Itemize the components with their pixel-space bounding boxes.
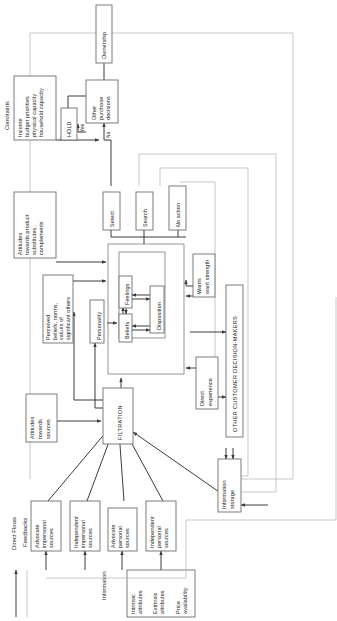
node-other-purchase-decisions[interactable]: Other purchase decisions (86, 80, 118, 123)
node-personality[interactable]: Personality (90, 300, 104, 343)
node-filtration-label: FILTRATION (117, 405, 123, 440)
node-no-action[interactable]: No action (169, 186, 186, 230)
extrinsic-line1: Extrinsic (152, 592, 158, 614)
ips-line3: sources (163, 528, 169, 548)
node-disposition[interactable]: Disposition (150, 286, 164, 333)
direct-exp-line1: Direct (199, 391, 205, 406)
aps-line2: personal (117, 526, 123, 548)
iis-line1: Independent (73, 516, 79, 548)
node-select[interactable]: Select (103, 192, 120, 230)
flowchart-svg: Ownership Other purchase decisions HOLD … (0, 0, 337, 621)
ats-line1: Attitudes (29, 417, 35, 439)
node-attitudes-towards-product[interactable]: Attitudes towards product substitutes, c… (14, 192, 56, 258)
node-constraints[interactable]: Income budget priorities physical capaci… (14, 76, 56, 140)
wants-line1: Wants (196, 278, 202, 294)
intrinsic-line1: Intrinsic (130, 594, 136, 614)
aps-line3: sources (124, 528, 130, 548)
node-attributes-group[interactable]: Intrinsic attributes Extrinsic attribute… (127, 570, 195, 617)
constraints-line2: budget priorities (24, 96, 30, 137)
diagram-canvas: Ownership Other purchase decisions HOLD … (0, 0, 337, 621)
feedback-frames (30, 33, 336, 520)
node-advocate-personal-sources[interactable]: Advocate personal sources (108, 508, 137, 551)
node-independent-personal-sources[interactable]: Independent personal sources (146, 501, 176, 551)
node-information-storage[interactable]: Information storage (218, 459, 241, 512)
ais-line1: Advocate (34, 524, 40, 548)
node-other-customer-decision-makers[interactable]: OTHER CUSTOMER DECISION-MAKERS (226, 285, 243, 437)
node-independent-impersonal-sources[interactable]: Independent impersonal sources (70, 501, 100, 551)
atp-line2: towards product (24, 214, 30, 255)
ips-line1: Independent (149, 516, 155, 548)
ocdm-label: OTHER CUSTOMER DECISION-MAKERS (232, 316, 238, 432)
ais-line3: sources (48, 528, 54, 548)
wants-line2: want strength (204, 260, 210, 295)
iis-line2: impersonal (80, 520, 86, 548)
opd-line1: Other (91, 106, 97, 120)
perceived-line4: significant others (65, 297, 71, 340)
node-hold-label: HOLD (66, 121, 72, 137)
edge-label-no: No (106, 131, 111, 138)
constraints-line3: physical capacity (31, 94, 37, 137)
direct-exp-line2: experience (207, 378, 213, 406)
iis-line3: sources (87, 528, 93, 548)
edge-label-yes: Yes (80, 123, 85, 132)
infostore-line2: storage (229, 490, 235, 509)
price-line1: Price (175, 601, 181, 614)
ips-line2: personal (156, 526, 162, 548)
node-attitudes-towards-sources[interactable]: Attitudes towards sources (26, 394, 57, 442)
extrinsic-line2: attributes (159, 590, 165, 614)
perceived-line3: values of (58, 317, 64, 340)
node-no-action-label: No action (175, 203, 181, 227)
node-personality-label: Personality (96, 312, 102, 340)
perceived-line1: Perceived (45, 315, 51, 340)
atp-line3: substitutes, (31, 226, 37, 255)
node-disposition-label: Disposition (156, 302, 162, 330)
node-select-label: Select (109, 211, 115, 227)
atp-line1: Attitudes (17, 233, 23, 255)
atp-line4: complements (38, 221, 44, 255)
ats-line3: sources (45, 419, 51, 439)
opd-line2: purchase (98, 97, 104, 120)
node-wants[interactable]: Wants want strength (193, 254, 215, 297)
infostore-line1: Information (221, 480, 227, 509)
ats-line2: towards (37, 419, 43, 439)
node-hold[interactable]: HOLD (61, 108, 77, 140)
node-search[interactable]: Search (136, 192, 153, 230)
node-feelings-label: Feelings (124, 283, 130, 305)
node-beliefs[interactable]: Beliefs (119, 314, 132, 342)
node-perceived-beliefs[interactable]: Perceived beliefs, norms, values of sign… (43, 275, 73, 343)
node-search-label: Search (142, 209, 148, 227)
constraints-title: Constraints (4, 101, 10, 130)
constraints-line1: Income (17, 118, 23, 137)
intrinsic-line2: attributes (137, 590, 143, 614)
node-ownership-label: Ownership (101, 32, 107, 59)
node-direct-experience[interactable]: Direct experience (196, 357, 218, 409)
node-ownership[interactable]: Ownership (96, 5, 112, 63)
node-advocate-impersonal-sources[interactable]: Advocate impersonal sources (31, 501, 61, 551)
legend-feedbacks-label: Feedbacks (22, 518, 28, 547)
opd-line3: decisions (105, 96, 111, 120)
ais-line2: impersonal (41, 520, 47, 548)
legend-direct-flows-label: Direct Flows (11, 517, 17, 550)
node-filtration[interactable]: FILTRATION (103, 388, 133, 444)
constraints-line4: household capacity (38, 88, 44, 137)
information-label: Information (101, 571, 107, 600)
aps-line1: Advocate (110, 524, 116, 548)
legend: Direct Flows Feedbacks (11, 517, 28, 617)
node-beliefs-label: Beliefs (124, 322, 130, 339)
node-feelings[interactable]: Feelings (119, 276, 132, 308)
price-line2: availability (182, 587, 188, 614)
